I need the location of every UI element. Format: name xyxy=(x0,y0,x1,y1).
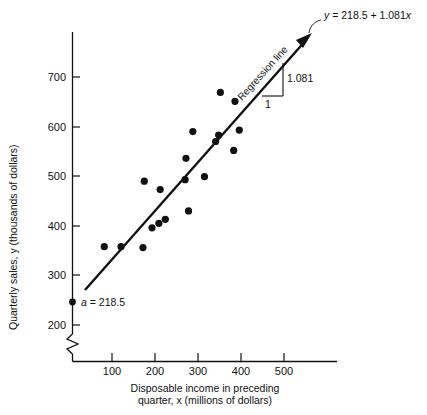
scatter-plot-svg: 700 600 500 400 300 200 Quarterly sales,… xyxy=(0,0,427,415)
intercept-point xyxy=(69,299,76,306)
x-tick-label-200: 200 xyxy=(146,365,164,377)
intercept-label-value: = 218.5 xyxy=(87,296,125,308)
figure-container: 700 600 500 400 300 200 Quarterly sales,… xyxy=(0,0,427,415)
data-point xyxy=(185,207,192,214)
data-point xyxy=(236,126,243,133)
x-tick-label-100: 100 xyxy=(103,365,121,377)
data-point xyxy=(141,178,148,185)
x-tick-label-500: 500 xyxy=(275,365,293,377)
y-tick-label-700: 700 xyxy=(48,71,66,83)
data-point xyxy=(189,128,196,135)
y-axis: 700 600 500 400 300 200 Quarterly sales,… xyxy=(7,32,80,362)
data-point xyxy=(155,220,162,227)
data-point xyxy=(201,173,208,180)
data-point xyxy=(212,138,219,145)
equation-x-var: x xyxy=(405,9,412,21)
regression-line-arrowhead xyxy=(296,33,312,48)
x-axis-tick-labels: 100 200 300 400 500 xyxy=(103,365,293,377)
regression-line-label: Regression line xyxy=(235,43,290,102)
equation-body: = 218.5 + 1.081 xyxy=(329,9,406,21)
data-point xyxy=(148,224,155,231)
y-axis-title: Quarterly sales, y (thousands of dollars… xyxy=(7,144,19,330)
y-axis-break-icon xyxy=(67,334,78,354)
x-axis-title-line2: quarter, x (millions of dollars) xyxy=(138,394,272,406)
regression-line xyxy=(85,39,307,290)
x-tick-label-400: 400 xyxy=(232,365,250,377)
data-point xyxy=(101,243,108,250)
x-axis-ticks xyxy=(112,353,284,362)
data-point-series xyxy=(101,89,243,251)
y-tick-label-600: 600 xyxy=(48,121,66,133)
equation-leader-line xyxy=(309,20,321,33)
slope-run-label: 1 xyxy=(265,98,271,110)
y-tick-label-300: 300 xyxy=(48,269,66,281)
regression-line-group: Regression line 1.081 1 xyxy=(85,33,313,290)
data-point xyxy=(217,89,224,96)
x-tick-label-300: 300 xyxy=(189,365,207,377)
data-point xyxy=(162,216,169,223)
data-point xyxy=(231,98,238,105)
equation-callout: y = 218.5 + 1.081x xyxy=(309,9,412,33)
data-point xyxy=(215,131,222,138)
data-point xyxy=(182,155,189,162)
y-axis-ticks xyxy=(73,77,81,325)
intercept-label: a = 218.5 xyxy=(81,296,125,308)
y-tick-label-500: 500 xyxy=(48,170,66,182)
data-point xyxy=(157,186,164,193)
data-point xyxy=(117,243,124,250)
data-point xyxy=(139,244,146,251)
data-point xyxy=(182,176,189,183)
slope-rise-label: 1.081 xyxy=(287,72,313,84)
data-point xyxy=(230,147,237,154)
y-tick-label-200: 200 xyxy=(48,319,66,331)
x-axis: 100 200 300 400 500 Disposable income in… xyxy=(73,353,338,406)
regression-equation: y = 218.5 + 1.081x xyxy=(323,9,412,21)
intercept-marker-group: a = 218.5 xyxy=(69,296,125,308)
y-axis-tick-labels: 700 600 500 400 300 200 xyxy=(48,71,66,331)
y-tick-label-400: 400 xyxy=(48,220,66,232)
x-axis-title-line1: Disposable income in preceding xyxy=(131,382,280,394)
